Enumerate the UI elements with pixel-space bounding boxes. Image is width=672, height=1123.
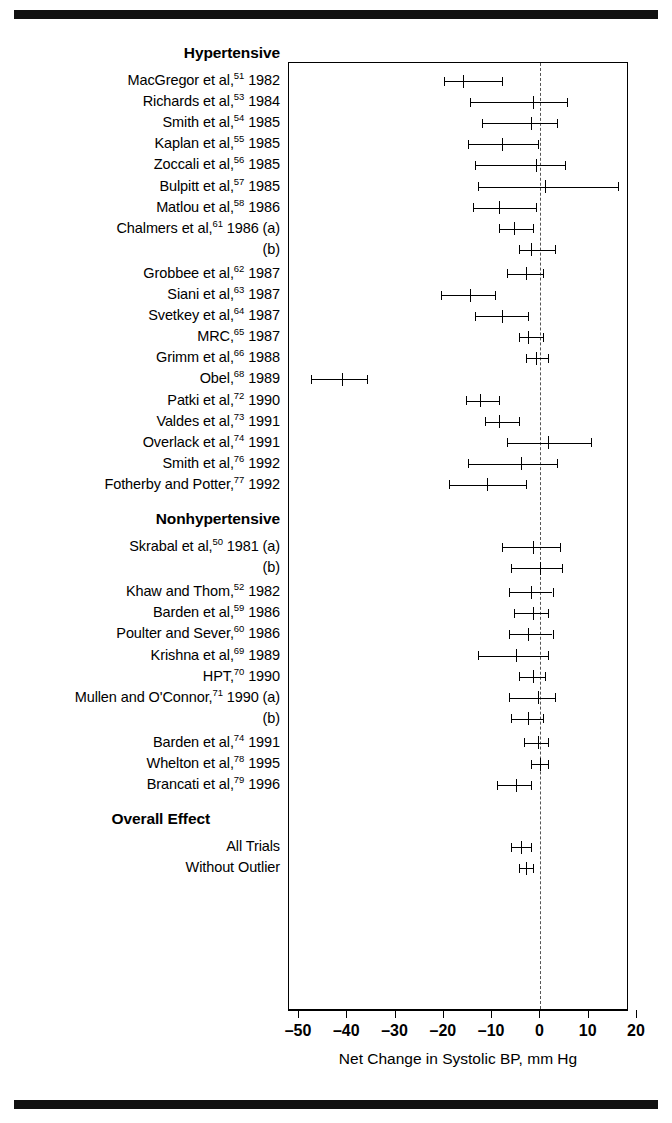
point-estimate-marker [548,436,549,449]
confidence-interval-line [509,698,555,699]
point-estimate-marker [531,243,532,256]
ci-lower-cap [482,119,483,128]
ci-lower-cap [485,417,486,426]
x-axis-title: Net Change in Systolic BP, mm Hg [288,1050,628,1068]
ci-lower-cap [526,354,527,363]
confidence-interval-line [497,785,531,786]
study-label: Skrabal et al,50 1981 (a) [129,539,280,554]
point-estimate-marker [499,415,500,428]
ci-lower-cap [531,760,532,769]
point-estimate-marker [531,586,532,599]
study-label: Without Outlier [186,860,280,875]
ci-lower-cap [511,714,512,723]
study-label: Kaplan et al,55 1985 [155,136,281,151]
x-axis-tick-label: –30 [381,1022,408,1040]
ci-upper-cap [618,182,619,191]
confidence-interval-line [509,634,552,635]
study-label: Siani et al,63 1987 [167,287,280,302]
confidence-interval-line [499,229,533,230]
confidence-interval-line [519,250,555,251]
group-header-hypertensive: Hypertensive [184,46,280,61]
study-label: Khaw and Thom,52 1982 [126,584,280,599]
ci-upper-cap [591,438,592,447]
study-label: Krishna et al,69 1989 [151,648,280,663]
confidence-interval-line [478,187,618,188]
ci-upper-cap [499,396,500,405]
study-label: Grimm et al,66 1988 [156,350,280,365]
x-axis-tick-label: –40 [333,1022,360,1040]
ci-upper-cap [543,333,544,342]
x-axis-tick [443,1010,444,1018]
ci-upper-cap [557,119,558,128]
ci-lower-cap [511,843,512,852]
ci-upper-cap [533,224,534,233]
point-estimate-marker [526,267,527,280]
x-axis: –50–40–30–20–1001020 [288,1010,628,1011]
bottom-rule [14,1100,658,1109]
study-label: All Trials [226,839,280,854]
point-estimate-marker [516,779,517,792]
study-label: Barden et al,74 1991 [153,735,280,750]
x-axis-tick [395,1010,396,1018]
ci-lower-cap [468,140,469,149]
x-axis-tick-label: –20 [429,1022,456,1040]
point-estimate-marker [545,180,546,193]
confidence-interval-line [519,677,546,678]
point-estimate-marker [536,352,537,365]
x-axis-line [288,1010,628,1011]
ci-upper-cap [555,245,556,254]
ci-upper-cap [565,161,566,170]
confidence-interval-line [444,81,502,82]
ci-lower-cap [449,480,450,489]
x-axis-tick [588,1010,589,1018]
ci-upper-cap [502,77,503,86]
ci-lower-cap [473,203,474,212]
point-estimate-marker [463,75,464,88]
ci-upper-cap [555,693,556,702]
point-estimate-marker [538,736,539,749]
x-axis-tick-label: 20 [627,1022,645,1040]
ci-lower-cap [497,781,498,790]
ci-lower-cap [509,630,510,639]
confidence-interval-line [468,144,538,145]
ci-upper-cap [548,354,549,363]
point-estimate-marker [528,628,529,641]
ci-upper-cap [548,760,549,769]
study-label: Smith et al,76 1992 [162,456,280,471]
ci-lower-cap [502,543,503,552]
study-label: Zoccali et al,56 1985 [154,157,280,172]
study-label: Barden et al,59 1986 [153,605,280,620]
study-label: (b) [263,560,280,575]
ci-upper-cap [519,417,520,426]
ci-upper-cap [533,864,534,873]
confidence-interval-line [311,379,367,380]
ci-upper-cap [526,480,527,489]
ci-lower-cap [475,161,476,170]
study-label: Mullen and O'Connor,71 1990 (a) [75,690,280,705]
ci-upper-cap [528,312,529,321]
study-label: Matlou et al,58 1986 [156,200,280,215]
ci-lower-cap [519,333,520,342]
ci-lower-cap [514,609,515,618]
x-axis-tick [636,1010,637,1018]
ci-lower-cap [311,375,312,384]
x-axis-tick [539,1010,540,1018]
study-label: Overlack et al,74 1991 [143,435,280,450]
study-label: (b) [263,242,280,257]
ci-upper-cap [548,651,549,660]
x-axis-tick [298,1010,299,1018]
study-label: Obel,68 1989 [200,371,280,386]
point-estimate-marker [470,289,471,302]
ci-upper-cap [557,459,558,468]
confidence-interval-line [507,274,543,275]
x-axis-tick-label: –10 [478,1022,505,1040]
confidence-interval-line [502,547,560,548]
confidence-interval-line [482,123,557,124]
x-axis-tick [491,1010,492,1018]
ci-upper-cap [548,609,549,618]
ci-upper-cap [553,630,554,639]
x-axis-tick-label: 0 [535,1022,544,1040]
point-estimate-marker [521,457,522,470]
study-label: Fotherby and Potter,77 1992 [104,477,280,492]
group-header-overall-effect: Overall Effect [111,812,210,827]
